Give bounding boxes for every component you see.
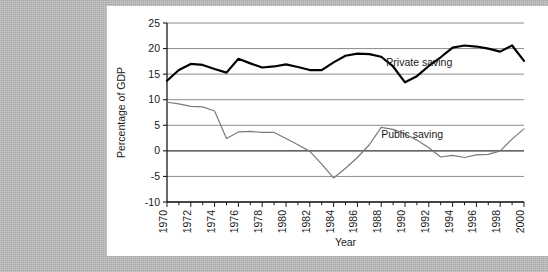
axis-lines <box>167 23 524 202</box>
x-tick-marks <box>167 202 524 207</box>
x-tick-label: 1988 <box>371 210 383 234</box>
x-axis-label: Year <box>335 236 357 248</box>
x-tick-label: 1996 <box>466 210 478 234</box>
y-tick-label: 20 <box>148 42 160 54</box>
x-tick-labels: 1970197219741976197819801982198419861988… <box>157 210 526 234</box>
y-tick-label: 5 <box>154 119 160 131</box>
x-tick-label: 1978 <box>252 210 264 234</box>
y-tick-label: -10 <box>145 196 160 208</box>
data-series <box>167 46 524 178</box>
x-tick-label: 1972 <box>181 210 193 234</box>
grid-lines <box>167 23 524 202</box>
y-tick-labels: 2520151050-5-10 <box>145 17 167 208</box>
annotation-private-saving: Private saving <box>386 56 452 68</box>
x-tick-label: 1998 <box>490 210 502 234</box>
series-line-private-saving <box>167 46 524 83</box>
chart-screenshot: 2520151050-5-10 197019721974197619781980… <box>0 0 548 272</box>
y-tick-label: 10 <box>148 93 160 105</box>
y-axis-label: Percentage of GDP <box>115 67 127 158</box>
x-tick-label: 1974 <box>205 210 217 234</box>
series-annotations: Private savingPublic saving <box>381 56 452 140</box>
y-tick-label: 0 <box>154 144 160 156</box>
y-tick-label: 15 <box>148 68 160 80</box>
x-tick-label: 1976 <box>228 210 240 234</box>
y-tick-label: -5 <box>151 170 160 182</box>
x-tick-label: 1970 <box>157 210 169 234</box>
x-tick-label: 1980 <box>276 210 288 234</box>
y-tick-label: 25 <box>148 17 160 29</box>
x-tick-label: 1992 <box>419 210 431 234</box>
line-chart: 2520151050-5-10 197019721974197619781980… <box>107 6 548 256</box>
x-tick-label: 1994 <box>443 210 455 234</box>
x-tick-label: 1984 <box>324 210 336 234</box>
x-tick-label: 2000 <box>514 210 526 234</box>
x-tick-label: 1982 <box>300 210 312 234</box>
x-tick-label: 1990 <box>395 210 407 234</box>
x-tick-label: 1986 <box>347 210 359 234</box>
series-line-public-saving <box>167 102 524 178</box>
annotation-public-saving: Public saving <box>381 128 443 140</box>
